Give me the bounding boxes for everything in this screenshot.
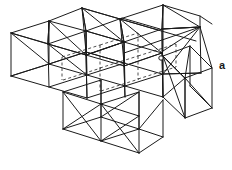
label-a: a	[219, 60, 225, 71]
space-frame-wireframe	[0, 0, 232, 170]
figure-container: a	[0, 0, 232, 170]
right-projecting-block	[163, 46, 212, 118]
highlighted-joint-node-icon	[159, 56, 163, 60]
side-face-bracing	[11, 21, 201, 98]
top-face-bracing	[11, 5, 200, 66]
upper-chord-grid	[11, 5, 212, 66]
lower-chord-grid	[11, 52, 201, 98]
down-projecting-block	[63, 80, 163, 153]
